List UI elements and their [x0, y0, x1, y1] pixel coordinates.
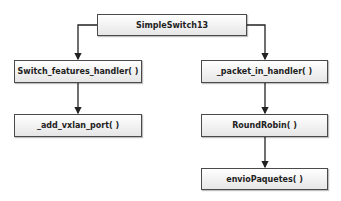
node-label: envioPaquetes( )	[226, 175, 303, 184]
node-envio-paquetes: envioPaquetes( )	[201, 168, 328, 190]
node-packet-in-handler: _packet_in_handler( )	[201, 60, 328, 83]
edge-root-to-switch-features	[78, 25, 97, 59]
node-label: _add_vxlan_port( )	[37, 121, 119, 130]
node-switch-features-handler: Switch_features_handler( )	[14, 60, 142, 83]
node-label: Switch_features_handler( )	[18, 67, 139, 76]
node-label: SimpleSwitch13	[136, 21, 208, 30]
edge-root-to-packet-in	[247, 25, 265, 59]
node-round-robin: RoundRobin( )	[201, 114, 328, 137]
node-simpleswitch13: SimpleSwitch13	[97, 14, 247, 36]
node-label: _packet_in_handler( )	[217, 67, 312, 76]
node-label: RoundRobin( )	[232, 121, 297, 130]
node-add-vxlan-port: _add_vxlan_port( )	[14, 114, 142, 137]
